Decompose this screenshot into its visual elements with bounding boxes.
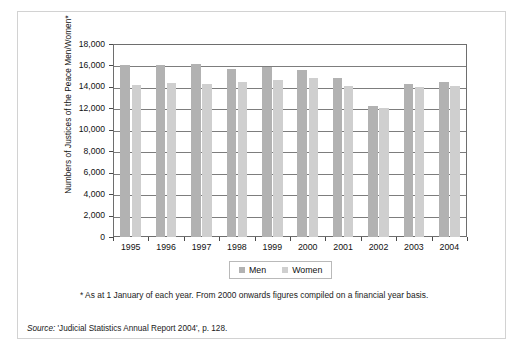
- x-axis-tick-mark: [361, 237, 362, 241]
- x-axis-tick-mark: [113, 237, 114, 241]
- x-axis-tick-mark: [325, 237, 326, 241]
- gridline: [114, 66, 466, 67]
- gridline: [114, 217, 466, 218]
- gridline: [114, 131, 466, 132]
- y-axis-tick-label: 16,000: [45, 61, 105, 70]
- gridline: [114, 152, 466, 153]
- legend-entry-women: Women: [282, 265, 322, 275]
- x-axis-tick-label-1999: 1999: [252, 242, 292, 252]
- x-axis-tick-mark: [219, 237, 220, 241]
- x-axis-tick-label-1995: 1995: [111, 242, 151, 252]
- source-text: 'Judicial Statistics Annual Report 2004'…: [58, 324, 228, 333]
- x-axis-tick-mark: [467, 237, 468, 241]
- x-axis-tick-label-1996: 1996: [146, 242, 186, 252]
- gridline: [114, 174, 466, 175]
- x-axis-tick-mark: [148, 237, 149, 241]
- y-axis-tick-label: 2,000: [45, 211, 105, 220]
- y-axis-tick-label: 0: [45, 233, 105, 242]
- y-axis-tick-label: 6,000: [45, 168, 105, 177]
- legend-label-women: Women: [292, 265, 322, 275]
- x-axis-tick-label-1998: 1998: [217, 242, 257, 252]
- x-axis-tick-label-2001: 2001: [323, 242, 363, 252]
- figure-frame: Numbers of Justices of the Peace Men/Wom…: [17, 11, 506, 339]
- source-label: Source:: [27, 324, 55, 333]
- x-axis-tick-label-2002: 2002: [359, 242, 399, 252]
- gridline: [114, 109, 466, 110]
- legend-swatch-men-icon: [239, 267, 245, 273]
- y-axis-tick-label: 4,000: [45, 190, 105, 199]
- source-line: Source: 'Judicial Statistics Annual Repo…: [27, 324, 227, 333]
- x-axis-tick-mark: [290, 237, 291, 241]
- gridline: [114, 195, 466, 196]
- x-axis-labels: 1995199619971998199920002001200220032004: [113, 240, 467, 256]
- x-axis-tick-mark: [396, 237, 397, 241]
- legend-entry-men: Men: [239, 265, 266, 275]
- x-axis-tick-label-2003: 2003: [394, 242, 434, 252]
- chart-area: Numbers of Justices of the Peace Men/Wom…: [18, 12, 507, 272]
- y-axis-tick-label: 10,000: [45, 125, 105, 134]
- legend-swatch-women-icon: [282, 267, 288, 273]
- y-axis-tick-label: 14,000: [45, 82, 105, 91]
- y-axis-tick-label: 18,000: [45, 40, 105, 49]
- plot-area: [113, 44, 467, 237]
- gridline: [114, 88, 466, 89]
- y-axis-tick-label: 12,000: [45, 104, 105, 113]
- chart-legend: Men Women: [229, 261, 332, 279]
- x-axis-tick-mark: [432, 237, 433, 241]
- x-axis-tick-label-2004: 2004: [429, 242, 469, 252]
- x-axis-tick-label-2000: 2000: [288, 242, 328, 252]
- y-axis-tick-label: 8,000: [45, 147, 105, 156]
- chart-footnote: * As at 1 January of each year. From 200…: [80, 289, 480, 301]
- x-axis-tick-label-1997: 1997: [182, 242, 222, 252]
- legend-label-men: Men: [249, 265, 266, 275]
- x-axis-tick-mark: [184, 237, 185, 241]
- x-axis-tick-mark: [255, 237, 256, 241]
